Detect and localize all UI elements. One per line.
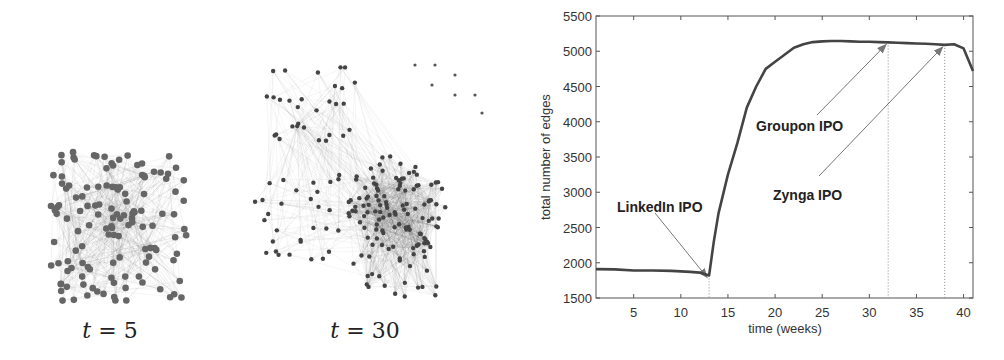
network-node [416,285,420,289]
network-node [59,297,66,304]
network-node [95,211,102,218]
network-node [413,206,417,210]
network-node [353,80,357,84]
network-node [116,157,123,164]
network-node [123,198,130,205]
network-node [383,284,387,288]
network-node [294,188,298,192]
x-tick-label: 10 [674,305,688,320]
network-node [358,220,362,224]
network-node [327,250,331,254]
network-node [373,209,377,213]
network-node [85,264,92,271]
y-tick-label: 4500 [563,80,592,95]
network-node [422,249,426,253]
network-node [347,214,351,218]
network-node [473,93,476,96]
network-node [337,173,341,177]
network-node [180,177,187,184]
network-node [311,226,315,230]
network-node [117,215,124,222]
network-graph-t5 [20,140,220,315]
network-node [398,258,402,262]
network-node [429,198,433,202]
network-node [327,99,331,103]
network-node [134,162,141,169]
network-node [180,197,187,204]
network-node [343,65,347,69]
network-node [354,177,358,181]
network-node [433,63,436,66]
network-node [406,212,410,216]
network-node [336,177,340,181]
network-node [116,254,123,261]
network-node [260,198,264,202]
network-node [436,225,440,229]
plot-frame [596,16,973,298]
network-node [363,186,367,190]
network-node [84,203,91,210]
network-node [376,188,380,192]
network-node [378,162,382,166]
network-node [296,105,300,109]
network-node [84,184,91,191]
network-node [58,159,65,166]
network-node [141,174,148,181]
network-node [391,245,395,249]
network-node [146,253,153,260]
network-node [59,173,66,180]
network-node [64,268,71,275]
caption-t30: t = 30 [300,318,430,343]
network-node [115,186,122,193]
network-node [359,253,363,257]
network-node [296,121,300,125]
network-node [377,274,381,278]
y-axis-label: total number of edges [538,94,553,220]
network-node [170,257,177,264]
network-node [366,203,370,207]
network-node [366,235,370,239]
network-node [419,232,423,236]
network-node [429,183,433,187]
annotation-label: LinkedIn IPO [617,199,703,215]
network-node [92,202,99,209]
network-node [422,202,426,206]
network-node [172,234,179,241]
y-tick-label: 5000 [563,44,592,59]
network-node [298,238,302,242]
network-node [407,171,411,175]
network-node [386,247,390,251]
network-node [86,222,93,229]
network-node [103,225,110,232]
network-node [328,180,332,184]
network-t30 [250,55,485,310]
network-node [173,164,180,171]
network-node [271,69,275,73]
network-node [48,262,55,269]
network-node [73,194,80,201]
network-t5 [20,140,220,315]
network-node [278,98,282,102]
network-node [103,165,110,172]
y-tick-label: 4000 [563,115,592,130]
network-node [420,216,424,220]
network-node [366,274,370,278]
network-node [79,273,86,280]
network-node [403,188,407,192]
network-node [299,97,303,101]
network-node [398,162,402,166]
network-node [147,245,154,252]
network-node [430,83,433,86]
network-node [139,224,146,231]
network-node [380,168,384,172]
network-node [380,243,384,247]
network-node [400,203,404,207]
network-node [131,208,138,215]
network-node [84,292,91,299]
network-node [420,285,424,289]
annotation-arrow [819,47,943,176]
network-node [412,170,416,174]
network-node [336,228,340,232]
network-node [324,139,328,143]
network-node [103,182,110,189]
